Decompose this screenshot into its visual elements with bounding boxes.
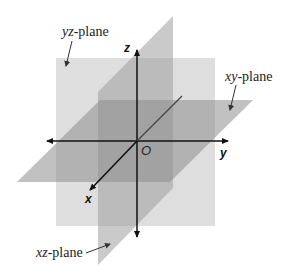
xz-plane-label: xz-plane <box>35 245 83 260</box>
z-axis-label: z <box>123 41 130 55</box>
coordinate-planes-diagram: z y x O yz-plane xy-plane xz-plane <box>0 0 285 275</box>
xy-plane-label: xy-plane <box>224 69 272 84</box>
y-axis-label: y <box>219 146 228 160</box>
x-axis-label: x <box>84 192 93 206</box>
diagram-svg: z y x O yz-plane xy-plane xz-plane <box>0 0 285 275</box>
origin-label: O <box>141 143 151 158</box>
yz-plane-label: yz-plane <box>60 24 109 39</box>
